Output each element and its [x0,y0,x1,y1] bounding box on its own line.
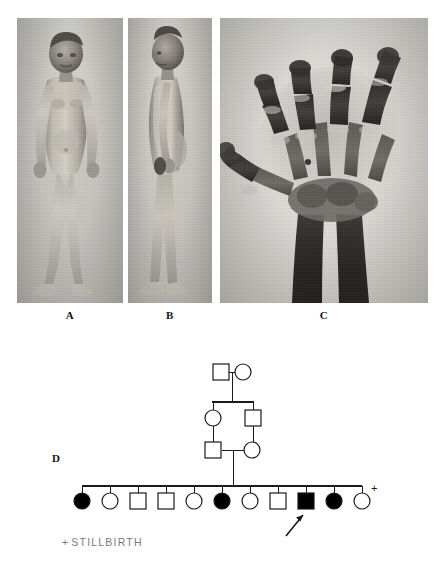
panel-label-b: B [128,309,212,321]
pedigree-chart: + [0,340,442,562]
stillbirth-plus-marker: + [371,482,377,494]
pedigree-symbol-IV-7[interactable] [242,493,258,509]
frontal-body-illustration [17,18,123,303]
pedigree-symbol-II-2[interactable] [245,410,261,426]
pedigree-symbol-II-1[interactable] [205,410,221,426]
panel-b-photograph [128,18,212,303]
proband-arrow-icon [286,515,303,536]
hand-xray-illustration [220,18,428,303]
pedigree-symbol-IV-8[interactable] [270,493,286,509]
pedigree-symbol-IV-2[interactable] [102,493,118,509]
pedigree-symbol-I-2[interactable] [235,364,251,380]
panel-label-a: A [17,309,123,321]
pedigree-symbol-IV-6[interactable] [214,493,230,509]
pedigree-legend: +STILLBIRTH [62,536,143,548]
pedigree-symbol-IV-9-proband[interactable] [298,493,314,509]
figure-root: A B C [0,0,442,562]
panel-d-pedigree: + [0,340,442,562]
pedigree-symbol-IV-11-stillbirth[interactable] [354,493,370,509]
pedigree-symbol-IV-3[interactable] [130,493,146,509]
pedigree-symbol-IV-1[interactable] [74,493,90,509]
legend-stillbirth-text: STILLBIRTH [71,536,142,548]
legend-plus-symbol: + [62,536,69,548]
panel-c-radiograph [220,18,428,303]
panel-label-c: C [220,309,428,321]
pedigree-symbol-IV-4[interactable] [158,493,174,509]
lateral-body-illustration [128,18,212,303]
pedigree-symbol-III-2[interactable] [244,442,260,458]
pedigree-symbol-IV-10[interactable] [326,493,342,509]
panel-label-d: D [52,452,60,464]
pedigree-symbol-I-1[interactable] [213,364,229,380]
pedigree-symbol-IV-5[interactable] [186,493,202,509]
panel-a-photograph [17,18,123,303]
pedigree-symbol-III-1[interactable] [205,442,221,458]
